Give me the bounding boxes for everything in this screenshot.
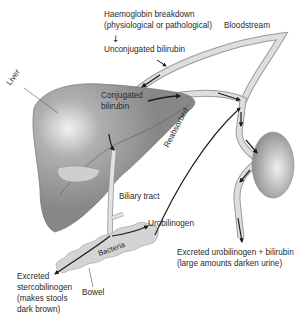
conjugated-bilirubin-label: Conjugated	[101, 91, 143, 102]
excreted-urine-label: Excreted urobilinogen + bilirubin	[177, 248, 294, 259]
haemoglobin-sublabel: (physiological or pathological)	[104, 21, 212, 32]
haemoglobin-label: Haemoglobin breakdown	[104, 10, 195, 21]
bloodstream-label: Bloodstream	[224, 21, 270, 32]
unconjugated-arrow	[157, 60, 166, 66]
urobilinogen-label: Urobilinogen	[148, 219, 194, 230]
biliary-tract-label: Biliary tract	[119, 192, 160, 203]
bowel-pointer-line	[89, 268, 93, 287]
excreted-stool-label-1: Excreted	[17, 272, 49, 283]
down-arrow-icon: ↓	[112, 34, 120, 44]
unconjugated-bilirubin-label: Unconjugated bilirubin	[104, 45, 185, 56]
excreted-stool-label-4: dark brown)	[17, 305, 60, 316]
excreted-stool-label-3: (makes stools	[17, 294, 68, 305]
conjugated-bilirubin-sublabel: bilirubin	[101, 102, 129, 113]
excreted-stool-label-2: stercobilinogen	[17, 283, 72, 294]
kidney	[252, 132, 294, 198]
bowel-label: Bowel	[82, 288, 104, 299]
excreted-urine-sublabel: (large amounts darken urine)	[177, 259, 282, 270]
